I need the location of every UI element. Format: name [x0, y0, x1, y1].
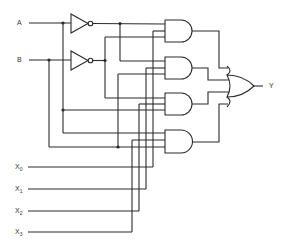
not-gate-a: [71, 14, 93, 33]
label-x1: X1: [15, 185, 22, 195]
a-not-wire: [93, 22, 165, 61]
a-true-wire: [63, 110, 165, 133]
label-x2: X2: [15, 207, 22, 217]
b-true-wire: [49, 74, 165, 149]
and-gate-2: [165, 57, 192, 79]
input-a-wire: [29, 21, 71, 133]
label-x3: X3: [15, 228, 22, 238]
label-y: Y: [269, 82, 274, 90]
and-output-wires: [192, 31, 230, 142]
or-gate: [227, 66, 254, 107]
not-gate-b: [71, 51, 93, 70]
x3-wire: [28, 140, 165, 232]
label-a: A: [17, 19, 22, 27]
mux-circuit-diagram: A B X0 X1 X2 X3 Y: [0, 0, 289, 247]
label-b: B: [17, 56, 22, 64]
and-gate-1: [165, 20, 192, 42]
label-x0: X0: [15, 163, 22, 173]
input-b-wire: [29, 58, 71, 147]
and-gate-4: [165, 130, 193, 153]
and-gate-3: [165, 93, 192, 115]
